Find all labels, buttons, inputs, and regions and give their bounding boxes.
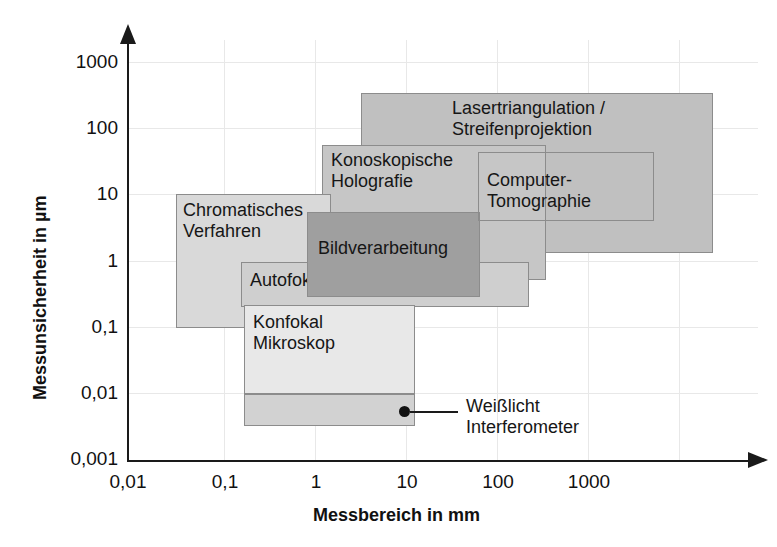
callout-leader-line xyxy=(410,411,458,413)
x-tick-label: 0,01 xyxy=(97,472,159,491)
y-tick-label: 0,001 xyxy=(70,449,118,468)
y-axis-title: Messunsicherheit in µm xyxy=(30,196,51,400)
x-tick-label: 10 xyxy=(376,472,438,491)
region-label-konfokal-mikroskop: Konfokal Mikroskop xyxy=(253,312,335,354)
region-label-computer-tomographie: Computer- Tomographie xyxy=(487,170,591,212)
y-tick-label: 10 xyxy=(97,184,118,203)
gridline-horizontal xyxy=(128,62,758,63)
x-axis-title: Messbereich in mm xyxy=(313,505,480,526)
region-label-lasertriangulation: Lasertriangulation / Streifenprojektion xyxy=(452,98,605,140)
y-tick-label: 0,01 xyxy=(81,383,118,402)
gridline-horizontal xyxy=(128,393,758,394)
y-tick-label: 0,1 xyxy=(92,317,118,336)
region-label-konoskopische-holografie: Konoskopische Holografie xyxy=(331,150,453,192)
x-tick-label: 0,1 xyxy=(194,472,256,491)
region-konfokal-mikroskop-lower[interactable] xyxy=(244,394,415,426)
region-label-chromatisches-verfahren: Chromatisches Verfahren xyxy=(183,200,303,242)
chart-canvas: Lasertriangulation / Streifenprojektion … xyxy=(0,0,777,547)
x-tick-label: 1 xyxy=(285,472,347,491)
y-axis-line xyxy=(127,38,129,461)
x-tick-label: 100 xyxy=(467,472,529,491)
x-tick-label: 1000 xyxy=(558,472,620,491)
x-axis-arrow-icon xyxy=(748,452,768,468)
region-label-bildverarbeitung: Bildverarbeitung xyxy=(318,238,448,259)
y-tick-label: 1 xyxy=(107,251,118,270)
x-axis-line xyxy=(127,460,755,462)
y-axis-arrow-icon xyxy=(120,24,136,44)
datapoint-weisslicht-interferometer[interactable] xyxy=(399,406,410,417)
callout-label-weisslicht-interferometer: Weißlicht Interferometer xyxy=(466,396,579,438)
y-tick-label: 1000 xyxy=(76,52,118,71)
y-tick-label: 100 xyxy=(86,118,118,137)
